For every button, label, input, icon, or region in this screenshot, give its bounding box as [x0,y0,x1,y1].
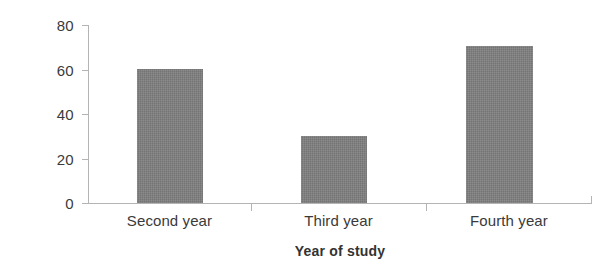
y-tick-label-0: 0 [38,195,74,212]
y-tick-label-60: 60 [38,62,74,79]
bar-third-year [301,136,367,203]
x-tick-mark-2 [426,203,427,211]
x-tick-label-second-year: Second year [88,212,251,229]
x-axis-line [88,203,592,204]
x-tick-label-fourth-year: Fourth year [426,212,592,229]
y-tick-label-20: 20 [38,151,74,168]
bar-fourth-year [466,46,533,203]
x-axis-title: Year of study [88,243,592,259]
x-tick-label-third-year: Third year [251,212,426,229]
y-tick-label-80: 80 [38,17,74,34]
bar-chart-figure: Frequency 80 60 40 20 0 Second year Thir… [0,0,616,275]
y-tick-label-40: 40 [38,106,74,123]
x-tick-mark-1 [251,203,252,211]
y-axis-line [88,25,89,204]
x-axis-end-cap [591,196,592,204]
bar-second-year [137,69,203,203]
